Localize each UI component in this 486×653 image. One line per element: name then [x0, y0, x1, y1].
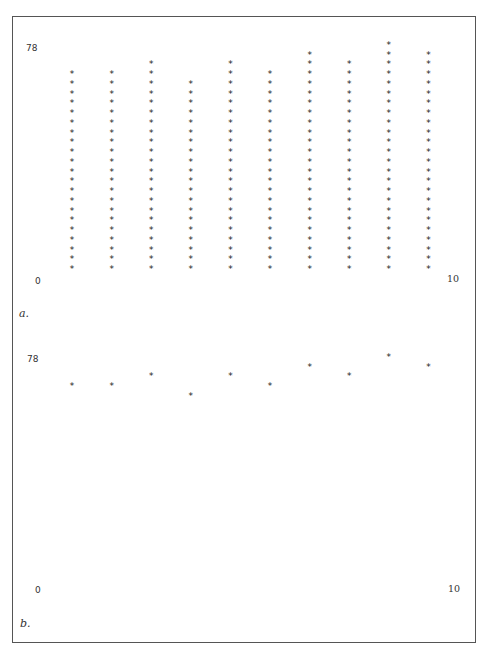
data-point-marker: * [108, 158, 116, 166]
data-point-marker: * [147, 236, 155, 244]
data-point-marker: * [266, 197, 274, 205]
data-point-marker: * [345, 60, 353, 68]
data-point-marker: * [345, 226, 353, 234]
data-point-marker: * [345, 265, 353, 273]
figure-frame [12, 16, 476, 643]
data-point-marker: * [68, 207, 76, 215]
data-point-marker: * [424, 363, 432, 371]
data-point-marker: * [266, 168, 274, 176]
data-point-marker: * [266, 158, 274, 166]
data-point-marker: * [147, 60, 155, 68]
data-point-marker: * [345, 119, 353, 127]
data-point-marker: * [147, 119, 155, 127]
data-point-marker: * [345, 197, 353, 205]
data-point-marker: * [266, 255, 274, 263]
data-point-marker: * [147, 372, 155, 380]
data-point-marker: * [147, 255, 155, 263]
data-point-marker: * [187, 168, 195, 176]
data-point-marker: * [226, 70, 234, 78]
data-point-marker: * [345, 246, 353, 254]
x-min-label: 0 [35, 585, 41, 595]
data-point-marker: * [306, 90, 314, 98]
data-point-marker: * [345, 148, 353, 156]
data-point-marker: * [147, 70, 155, 78]
data-point-marker: * [424, 70, 432, 78]
data-point-marker: * [385, 41, 393, 49]
data-point-marker: * [108, 148, 116, 156]
data-point-marker: * [266, 138, 274, 146]
data-point-marker: * [385, 129, 393, 137]
data-point-marker: * [68, 109, 76, 117]
data-point-marker: * [385, 236, 393, 244]
data-point-marker: * [68, 138, 76, 146]
data-point-marker: * [266, 226, 274, 234]
data-point-marker: * [424, 226, 432, 234]
data-point-marker: * [68, 382, 76, 390]
data-point-marker: * [266, 99, 274, 107]
data-point-marker: * [108, 207, 116, 215]
data-point-marker: * [108, 177, 116, 185]
data-point-marker: * [226, 246, 234, 254]
data-point-marker: * [187, 265, 195, 273]
data-point-marker: * [345, 70, 353, 78]
data-point-marker: * [424, 51, 432, 59]
data-point-marker: * [424, 148, 432, 156]
data-point-marker: * [108, 129, 116, 137]
data-point-marker: * [345, 187, 353, 195]
data-point-marker: * [424, 60, 432, 68]
data-point-marker: * [226, 90, 234, 98]
data-point-marker: * [385, 80, 393, 88]
data-point-marker: * [385, 207, 393, 215]
data-point-marker: * [385, 148, 393, 156]
data-point-marker: * [306, 168, 314, 176]
data-point-marker: * [226, 255, 234, 263]
data-point-marker: * [108, 382, 116, 390]
data-point-marker: * [68, 265, 76, 273]
data-point-marker: * [266, 80, 274, 88]
data-point-marker: * [266, 187, 274, 195]
data-point-marker: * [68, 177, 76, 185]
data-point-marker: * [68, 80, 76, 88]
x-max-label: 10 [447, 274, 459, 284]
data-point-marker: * [68, 119, 76, 127]
data-point-marker: * [108, 90, 116, 98]
data-point-marker: * [187, 129, 195, 137]
data-point-marker: * [306, 255, 314, 263]
data-point-marker: * [424, 119, 432, 127]
data-point-marker: * [306, 363, 314, 371]
data-point-marker: * [306, 119, 314, 127]
data-point-marker: * [226, 207, 234, 215]
data-point-marker: * [226, 177, 234, 185]
data-point-marker: * [266, 70, 274, 78]
data-point-marker: * [226, 236, 234, 244]
data-point-marker: * [266, 109, 274, 117]
data-point-marker: * [424, 207, 432, 215]
data-point-marker: * [345, 158, 353, 166]
data-point-marker: * [226, 80, 234, 88]
data-point-marker: * [306, 129, 314, 137]
data-point-marker: * [108, 236, 116, 244]
data-point-marker: * [345, 216, 353, 224]
data-point-marker: * [345, 138, 353, 146]
data-point-marker: * [108, 138, 116, 146]
data-point-marker: * [385, 187, 393, 195]
data-point-marker: * [385, 246, 393, 254]
data-point-marker: * [108, 70, 116, 78]
data-point-marker: * [187, 392, 195, 400]
data-point-marker: * [68, 216, 76, 224]
data-point-marker: * [108, 119, 116, 127]
x-max-label: 10 [448, 584, 460, 594]
data-point-marker: * [424, 80, 432, 88]
data-point-marker: * [385, 70, 393, 78]
data-point-marker: * [266, 265, 274, 273]
data-point-marker: * [345, 177, 353, 185]
data-point-marker: * [187, 177, 195, 185]
data-point-marker: * [187, 80, 195, 88]
data-point-marker: * [68, 187, 76, 195]
data-point-marker: * [68, 197, 76, 205]
data-point-marker: * [306, 138, 314, 146]
x-min-label: 0 [35, 276, 41, 286]
data-point-marker: * [385, 51, 393, 59]
data-point-marker: * [108, 187, 116, 195]
data-point-marker: * [108, 265, 116, 273]
